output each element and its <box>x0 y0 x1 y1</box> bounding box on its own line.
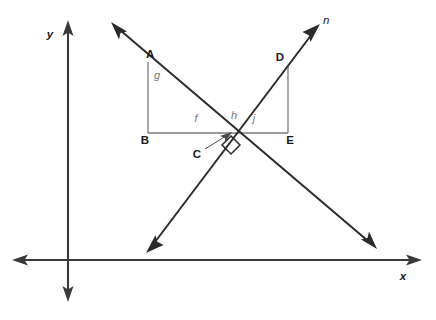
point-label-B: B <box>141 134 149 146</box>
point-labels-group: A B C D E <box>141 48 294 160</box>
line-falling-lower-arrowhead <box>361 232 377 250</box>
line-n-upper-arrowhead <box>303 24 321 42</box>
point-label-C: C <box>193 148 201 160</box>
line-falling-shaft <box>120 30 368 241</box>
point-c-leader-line <box>205 136 226 149</box>
point-label-A: A <box>146 48 154 60</box>
segment-labels-group: g f h j <box>154 69 256 124</box>
line-falling-upper-arrowhead <box>111 22 127 40</box>
y-axis-label: y <box>46 28 54 40</box>
point-label-D: D <box>276 51 284 63</box>
x-axis-label: x <box>399 270 407 282</box>
diagram-canvas: y x n <box>0 0 436 320</box>
point-label-E: E <box>286 134 294 146</box>
segment-label-h: h <box>231 109 237 121</box>
line-n-label: n <box>323 14 329 26</box>
line-n-lower-arrowhead <box>146 235 164 253</box>
segment-label-g: g <box>154 69 161 81</box>
geometry-diagram: y x n <box>0 0 436 320</box>
segment-label-f: f <box>194 112 198 124</box>
